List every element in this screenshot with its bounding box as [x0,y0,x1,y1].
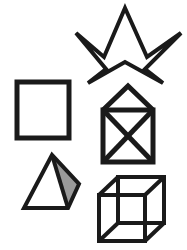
geometric-shapes-figure [0,0,187,250]
shapes-svg-canvas [0,0,187,250]
figure-background [0,0,187,250]
